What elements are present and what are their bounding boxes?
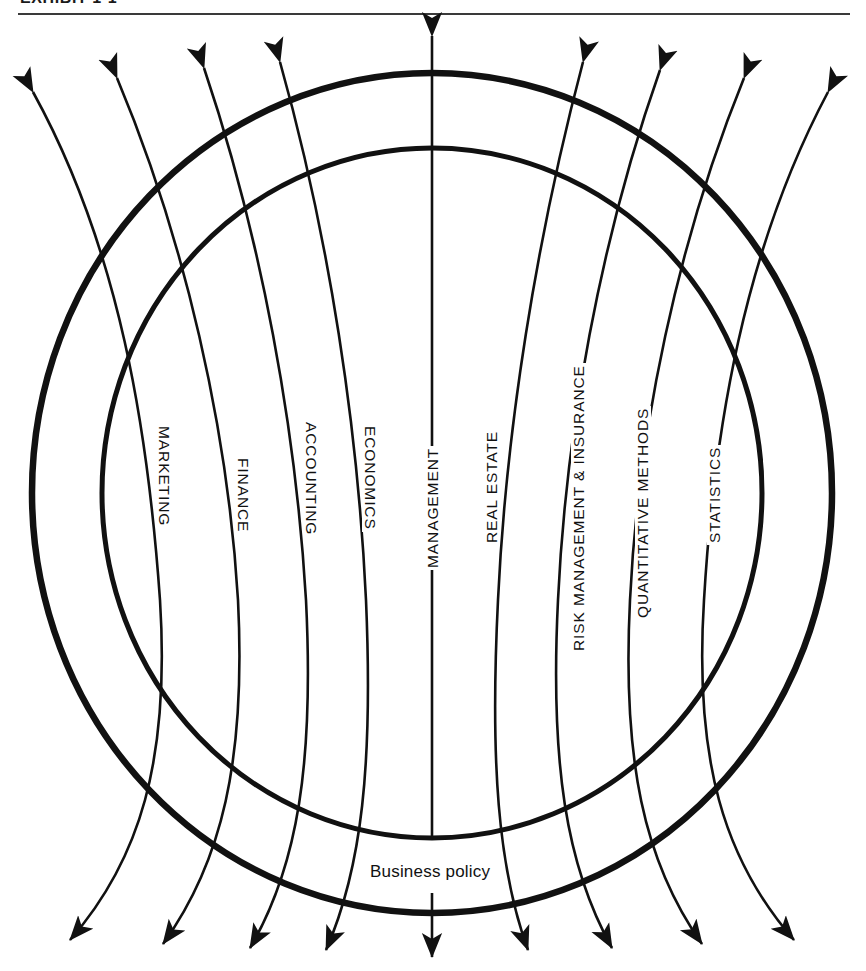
spoke-arrow-marketing: [33, 92, 162, 940]
spoke-label-statistics: STATISTICS: [707, 445, 723, 545]
spoke-label-risk-management-insurance: RISK MANAGEMENT & INSURANCE: [571, 363, 587, 653]
spoke-label-marketing: MARKETING: [157, 424, 173, 528]
spoke-label-economics: ECONOMICS: [363, 424, 379, 532]
spoke-label-finance: FINANCE: [236, 456, 252, 534]
spoke-label-accounting: ACCOUNTING: [304, 420, 320, 537]
business-policy-label: Business policy: [366, 862, 494, 882]
spoke-label-management: MANAGEMENT: [425, 446, 441, 570]
spoke-label-real-estate: REAL ESTATE: [484, 429, 500, 545]
spoke-label-quantitative-methods: QUANTITATIVE METHODS: [635, 406, 651, 620]
